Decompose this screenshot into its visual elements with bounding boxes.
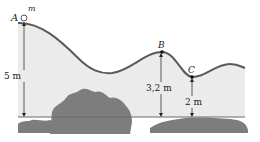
- height-label-a: 5 m: [4, 71, 22, 81]
- height-label-c: 2 m: [185, 97, 203, 107]
- point-a-label: A: [10, 12, 18, 23]
- point-b-label: B: [157, 40, 165, 50]
- point-c-marker: [190, 75, 194, 79]
- mass-ball-icon: [21, 15, 27, 21]
- mass-label: m: [28, 4, 36, 13]
- roller-coaster-diagram: A m B C 5 m 3,2 m 2 m: [0, 0, 260, 142]
- height-label-b: 3,2 m: [146, 83, 172, 93]
- point-c-label: C: [188, 65, 195, 75]
- point-b-marker: [160, 50, 164, 54]
- right-ground-scrub: [150, 118, 248, 133]
- left-ground-scrub: [18, 120, 56, 133]
